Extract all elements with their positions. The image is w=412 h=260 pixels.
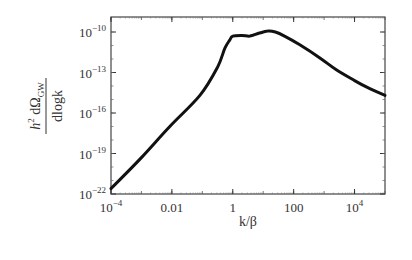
y-axis-label-denominator: dlogk xyxy=(50,90,65,122)
x-tick-labels: 10−40.011100104 xyxy=(100,198,364,215)
plot-area xyxy=(111,17,385,194)
x-tick-label: 100 xyxy=(284,200,304,215)
data-line xyxy=(111,31,385,189)
gw-spectrum-chart: 10−40.011100104 10−1010−1310−1610−1910−2… xyxy=(0,0,412,260)
y-tick-label: 10−16 xyxy=(79,104,107,121)
y-tick-label: 10−19 xyxy=(79,145,107,162)
axes-frame xyxy=(111,17,385,194)
x-tick-label: 0.01 xyxy=(161,200,184,215)
x-axis-label: k/β xyxy=(239,214,257,229)
x-tick-label: 10−4 xyxy=(100,198,123,215)
y-tick-label: 10−10 xyxy=(79,23,107,40)
x-tick-label: 1 xyxy=(230,200,237,215)
y-axis-label-numerator: h2 dΩGW xyxy=(26,82,46,130)
axis-ticks xyxy=(111,17,385,194)
x-tick-label: 104 xyxy=(346,198,364,215)
y-tick-labels: 10−1010−1310−1610−1910−22 xyxy=(79,23,107,202)
y-tick-label: 10−13 xyxy=(79,64,107,81)
y-axis-label: h2 dΩGW dlogk xyxy=(26,78,65,134)
